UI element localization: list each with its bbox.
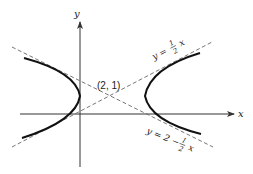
right-branch-curve [145, 53, 201, 134]
asymptote-line-2 [12, 47, 213, 147]
asymptote-1-suffix: x [177, 37, 186, 48]
asymptote-2-label: y = 2 − 1 2 x [143, 122, 197, 157]
y-axis-label: y [73, 8, 80, 19]
hyperbola-diagram: y x (2, 1) y = 1 2 x y = 2 − 1 2 x [0, 0, 253, 174]
asymptote-1-frac-den: 2 [171, 46, 180, 56]
asymptote-1-label: y = 1 2 x [148, 34, 188, 66]
x-axis-label: x [238, 108, 244, 119]
center-point-label: (2, 1) [97, 80, 120, 91]
asymptote-2-suffix: x [187, 142, 195, 153]
asymptote-1-prefix: y = [149, 46, 168, 62]
left-branch-curve [22, 58, 80, 138]
